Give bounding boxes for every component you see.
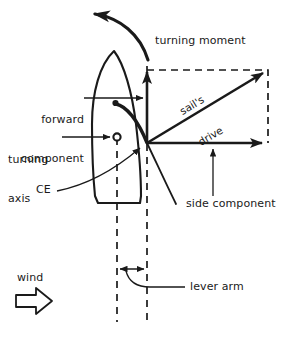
forward-component-label-line1: forward (6, 114, 84, 127)
turning-moment-label: turning moment (155, 35, 246, 48)
turning-axis-label-line1: turning (8, 154, 64, 167)
mast-point (112, 100, 118, 106)
sails-drive-label-line2: drive (196, 124, 225, 148)
lever-arm-leader (126, 271, 185, 287)
ce-label: CE (36, 184, 51, 197)
turning-moment-arrow (95, 14, 148, 60)
sail-force-diagram: forward component turning axis CE turnin… (0, 0, 296, 340)
sails-drive-label-line1: sail's (177, 93, 206, 117)
sail-lower-line (147, 143, 176, 204)
wind-arrow-icon (16, 288, 52, 314)
side-component-label: side component (186, 198, 276, 211)
wind-label: wind (17, 272, 43, 285)
lever-arm-label: lever arm (190, 281, 244, 294)
turning-axis-label: turning axis (8, 128, 64, 232)
turning-axis-point (113, 133, 120, 140)
